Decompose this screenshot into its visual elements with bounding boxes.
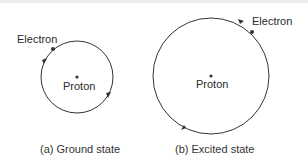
excited-proton-label: Proton xyxy=(196,78,228,90)
excited-caption: (b) Excited state xyxy=(175,143,254,155)
ground-proton-dot xyxy=(75,75,78,78)
excited-electron-label: Electron xyxy=(252,15,292,27)
ground-electron-dot xyxy=(51,47,55,51)
ground-caption: (a) Ground state xyxy=(40,143,120,155)
ground-electron-label: Electron xyxy=(17,33,57,45)
ground-proton-label: Proton xyxy=(63,80,95,92)
ground-arrow-icon xyxy=(42,58,47,64)
excited-arrow-icon xyxy=(238,19,244,24)
excited-electron-dot xyxy=(250,30,254,34)
